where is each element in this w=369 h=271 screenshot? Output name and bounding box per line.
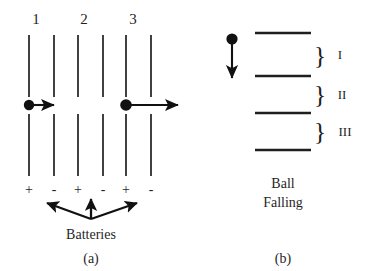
capacitor-2-plates (78, 35, 103, 176)
capacitor-label-2: 2 (80, 11, 88, 27)
capacitor-3-minus-sign: - (149, 182, 154, 197)
region-brace-III: } (314, 117, 326, 146)
capacitor-2-plus-sign: + (74, 182, 82, 197)
panel-a-caption: (a) (83, 251, 99, 267)
battery-arrow-left (47, 203, 91, 219)
region-numeral-II: II (338, 87, 347, 102)
batteries-callout-arrows (47, 199, 137, 219)
capacitor-3-plus-sign: + (122, 182, 130, 197)
ball-falling-line-1: Ball (271, 176, 294, 191)
region-group-III: } III (314, 117, 352, 146)
panel-b-caption: (b) (275, 251, 292, 267)
region-brace-II: } (314, 80, 326, 109)
panel-b: } I } II } III Ball Falling (b) (226, 33, 351, 267)
physics-figure: 1 2 3 (0, 0, 369, 271)
capacitor-2-minus-sign: - (101, 182, 106, 197)
capacitor-label-3: 3 (129, 11, 137, 27)
region-brace-I: } (314, 41, 326, 70)
panel-a: 1 2 3 (24, 11, 178, 267)
region-numeral-I: I (338, 47, 342, 62)
capacitor-1-minus-sign: - (52, 182, 57, 197)
region-group-II: } II (314, 80, 347, 109)
level-lines (255, 33, 311, 150)
figure-canvas: 1 2 3 (0, 0, 369, 271)
ball-falling-line-2: Falling (263, 195, 303, 210)
capacitor-1-plus-sign: + (25, 182, 33, 197)
battery-arrow-right (91, 203, 137, 219)
region-group-I: } I (314, 41, 342, 70)
batteries-label: Batteries (66, 227, 116, 242)
capacitor-label-1: 1 (32, 11, 40, 27)
region-numeral-III: III (339, 124, 352, 139)
